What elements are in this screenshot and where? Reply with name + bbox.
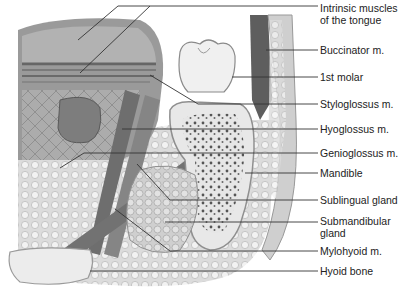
label-hyoglossus: Hyoglossus m. [320,123,389,135]
label-line: 1st molar [320,71,363,83]
label-line: Hyoid bone [320,265,373,277]
label-line: Hyoglossus m. [320,123,389,135]
label-line: gland [320,227,391,239]
label-line: Submandibular [320,215,391,227]
label-line: Styloglossus m. [320,98,394,110]
label-line: Buccinator m. [320,44,384,56]
label-mylohyoid: Mylohyoid m. [320,245,382,257]
label-buccinator: Buccinator m. [320,44,384,56]
label-styloglossus: Styloglossus m. [320,98,394,110]
label-sublingual-gland: Sublingual gland [320,194,398,206]
label-mandible: Mandible [320,167,363,179]
label-line: Genioglossus m. [320,147,398,159]
label-first-molar: 1st molar [320,71,363,83]
label-line: Mandible [320,167,363,179]
anatomy-figure: Intrinsic muscles of the tongue Buccinat… [0,0,409,294]
label-genioglossus: Genioglossus m. [320,147,398,159]
label-line: Intrinsic muscles [320,2,398,14]
first-molar-tooth [179,40,235,92]
label-hyoid-bone: Hyoid bone [320,265,373,277]
label-submandibular-gland: Submandibular gland [320,215,391,239]
label-line: Mylohyoid m. [320,245,382,257]
label-line: Sublingual gland [320,194,398,206]
label-line: of the tongue [320,14,398,26]
label-intrinsic-muscles: Intrinsic muscles of the tongue [320,2,398,26]
glands [127,166,198,252]
